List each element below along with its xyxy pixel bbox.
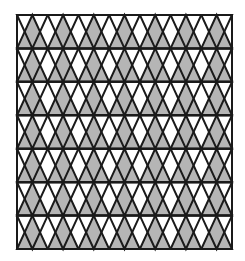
bands-group [17,15,232,249]
figure-root [0,0,245,261]
triangle-tessellation-figure [0,0,245,261]
